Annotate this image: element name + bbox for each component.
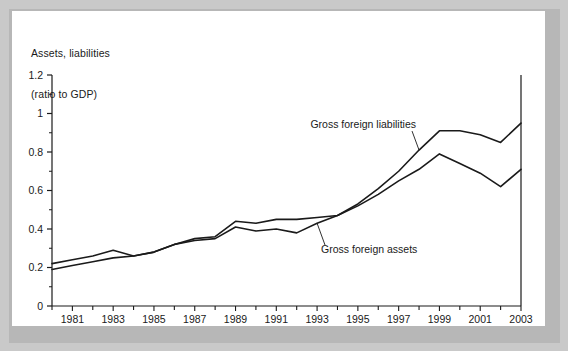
- series-line: [52, 123, 521, 264]
- x-tick-label: 1985: [142, 313, 166, 325]
- series-annotation-label: Gross foreign liabilities: [310, 118, 416, 130]
- x-tick-label: 1987: [183, 313, 207, 325]
- y-tick-label: 1: [37, 107, 43, 119]
- y-axis: 00.20.40.60.811.2: [28, 69, 52, 312]
- series-annotations: Gross foreign liabilitiesGross foreign a…: [310, 118, 419, 255]
- y-tick-label: 0: [37, 300, 43, 312]
- x-tick-label: 1983: [101, 313, 125, 325]
- y-tick-label: 0.2: [28, 261, 43, 273]
- series-annotation-label: Gross foreign assets: [321, 243, 417, 255]
- x-tick-label: 1989: [224, 313, 248, 325]
- series-lines: [52, 123, 521, 269]
- x-tick-label: 2001: [469, 313, 493, 325]
- x-tick-label: 1993: [305, 313, 329, 325]
- x-axis: 1981198319851987198919911993199519971999…: [52, 75, 533, 325]
- chart-plot: 00.20.40.60.811.2 1981198319851987198919…: [0, 0, 568, 351]
- y-tick-label: 0.6: [28, 184, 43, 196]
- y-tick-label: 0.8: [28, 146, 43, 158]
- figure-root: Assets, liabilities (ratio to GDP) 00.20…: [0, 0, 568, 351]
- x-tick-label: 1997: [387, 313, 411, 325]
- x-tick-label: 2003: [509, 313, 533, 325]
- y-tick-label: 0.4: [28, 223, 43, 235]
- x-tick-label: 1995: [346, 313, 370, 325]
- x-tick-label: 1991: [265, 313, 289, 325]
- y-tick-label: 1.2: [28, 69, 43, 81]
- x-tick-label: 1999: [428, 313, 452, 325]
- x-tick-label: 1981: [61, 313, 85, 325]
